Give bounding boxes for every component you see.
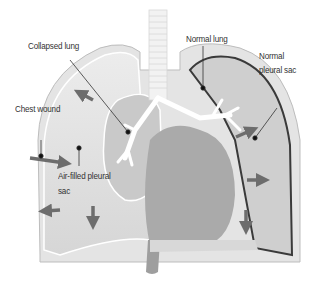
label-air-filled-pleural-sac-line2: sac xyxy=(58,185,70,196)
diaphragm xyxy=(150,240,258,252)
label-normal-pleural-sac-line2: pleural sac xyxy=(259,64,296,75)
label-collapsed-lung: Collapsed lung xyxy=(28,40,79,51)
label-normal-pleural-sac-line1: Normal xyxy=(259,50,284,61)
trachea xyxy=(149,10,167,100)
label-normal-lung: Normal lung xyxy=(186,33,228,44)
label-air-filled-pleural-sac-line1: Air-filled pleural xyxy=(58,170,111,181)
label-chest-wound: Chest wound xyxy=(15,103,60,114)
